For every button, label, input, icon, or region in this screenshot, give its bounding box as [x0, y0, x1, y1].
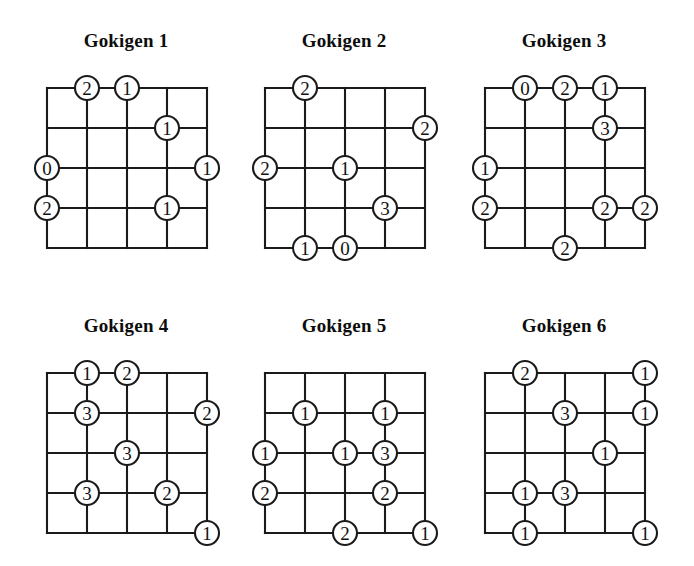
- grid-canvas: 021312222: [469, 72, 661, 264]
- clue-value: 1: [420, 523, 430, 544]
- clue-circle[interactable]: 0: [513, 76, 537, 100]
- clue-value: 3: [122, 443, 132, 464]
- clue-circle[interactable]: 2: [473, 196, 497, 220]
- clue-circle[interactable]: 2: [155, 481, 179, 505]
- clue-circle[interactable]: 3: [593, 116, 617, 140]
- puzzle-grid[interactable]: 2221310: [265, 88, 425, 248]
- grid-lines: [485, 373, 645, 533]
- grid-canvas: 111132221: [249, 357, 441, 549]
- clue-value: 1: [600, 78, 610, 99]
- clue-circle[interactable]: 2: [195, 401, 219, 425]
- clue-circle[interactable]: 2: [115, 361, 139, 385]
- clue-value: 2: [420, 118, 430, 139]
- clue-value: 2: [560, 78, 570, 99]
- puzzle-sheet: Gokigen 12110121Gokigen 22221310Gokigen …: [0, 0, 694, 566]
- puzzle-grid[interactable]: 111132221: [265, 373, 425, 533]
- clue-circle[interactable]: 1: [633, 361, 657, 385]
- clue-circle[interactable]: 1: [195, 521, 219, 545]
- clue-value: 1: [82, 363, 92, 384]
- clue-circle[interactable]: 1: [75, 361, 99, 385]
- clue-value: 2: [300, 78, 310, 99]
- clue-circle[interactable]: 1: [513, 481, 537, 505]
- clue-value: 1: [380, 403, 390, 424]
- puzzle-grid[interactable]: 12323321: [47, 373, 207, 533]
- clue-value: 1: [340, 158, 350, 179]
- clue-value: 2: [42, 198, 52, 219]
- clue-value: 1: [122, 78, 132, 99]
- clue-value: 3: [560, 403, 570, 424]
- clue-value: 2: [640, 198, 650, 219]
- clue-circle[interactable]: 3: [553, 401, 577, 425]
- clue-circle[interactable]: 2: [293, 76, 317, 100]
- clue-circle[interactable]: 2: [253, 156, 277, 180]
- clue-value: 2: [122, 363, 132, 384]
- clue-circle[interactable]: 2: [633, 196, 657, 220]
- clue-circle[interactable]: 1: [373, 401, 397, 425]
- clue-circle[interactable]: 2: [593, 196, 617, 220]
- clue-circle[interactable]: 2: [373, 481, 397, 505]
- clue-circle[interactable]: 2: [513, 361, 537, 385]
- puzzle-title: Gokigen 3: [485, 30, 643, 52]
- clue-value: 2: [340, 523, 350, 544]
- clue-circle[interactable]: 3: [115, 441, 139, 465]
- clue-value: 2: [260, 158, 270, 179]
- clue-value: 1: [640, 403, 650, 424]
- clue-circle[interactable]: 1: [253, 441, 277, 465]
- clue-circle[interactable]: 1: [513, 521, 537, 545]
- clue-circle[interactable]: 3: [75, 481, 99, 505]
- clue-circle[interactable]: 2: [553, 76, 577, 100]
- clue-circle[interactable]: 3: [553, 481, 577, 505]
- clue-circle[interactable]: 1: [293, 236, 317, 260]
- clue-circle[interactable]: 0: [333, 236, 357, 260]
- clue-value: 1: [520, 483, 530, 504]
- clue-value: 1: [202, 523, 212, 544]
- clue-circle[interactable]: 1: [413, 521, 437, 545]
- clue-circle[interactable]: 0: [35, 156, 59, 180]
- clue-circle[interactable]: 2: [253, 481, 277, 505]
- clue-circle[interactable]: 2: [413, 116, 437, 140]
- puzzle-grid[interactable]: 021312222: [485, 88, 645, 248]
- clue-circle[interactable]: 1: [293, 401, 317, 425]
- clue-value: 0: [42, 158, 52, 179]
- clue-circle[interactable]: 1: [593, 76, 617, 100]
- clue-circle[interactable]: 2: [35, 196, 59, 220]
- clue-value: 3: [600, 118, 610, 139]
- clue-circle[interactable]: 2: [553, 236, 577, 260]
- clue-circle[interactable]: 2: [333, 521, 357, 545]
- clue-value: 1: [640, 363, 650, 384]
- clue-circle[interactable]: 1: [115, 76, 139, 100]
- puzzle-grid[interactable]: 2110121: [47, 88, 207, 248]
- clue-value: 2: [380, 483, 390, 504]
- puzzle-title: Gokigen 4: [47, 315, 205, 337]
- clue-value: 1: [640, 523, 650, 544]
- puzzle-grid[interactable]: 213111311: [485, 373, 645, 533]
- clue-value: 1: [520, 523, 530, 544]
- puzzle-title: Gokigen 5: [265, 315, 423, 337]
- clue-value: 1: [600, 443, 610, 464]
- grid-lines: [485, 88, 645, 248]
- clue-value: 2: [202, 403, 212, 424]
- grid-canvas: 12323321: [31, 357, 223, 549]
- clue-circle[interactable]: 1: [473, 156, 497, 180]
- clue-value: 2: [480, 198, 490, 219]
- clue-circle[interactable]: 3: [373, 441, 397, 465]
- grid-canvas: 2221310: [249, 72, 441, 264]
- clue-circle[interactable]: 1: [333, 441, 357, 465]
- clue-circle[interactable]: 1: [593, 441, 617, 465]
- clue-value: 2: [560, 238, 570, 259]
- clue-circle[interactable]: 2: [75, 76, 99, 100]
- clue-circle[interactable]: 1: [333, 156, 357, 180]
- clue-circle[interactable]: 1: [155, 116, 179, 140]
- clue-circle[interactable]: 1: [155, 196, 179, 220]
- clue-value: 3: [380, 198, 390, 219]
- clue-value: 3: [380, 443, 390, 464]
- clue-value: 0: [340, 238, 350, 259]
- clue-circle[interactable]: 1: [195, 156, 219, 180]
- clue-value: 0: [520, 78, 530, 99]
- clue-circle[interactable]: 3: [75, 401, 99, 425]
- puzzle-title: Gokigen 1: [47, 30, 205, 52]
- clue-circle[interactable]: 1: [633, 521, 657, 545]
- clue-circle[interactable]: 3: [373, 196, 397, 220]
- clue-circle[interactable]: 1: [633, 401, 657, 425]
- clue-value: 1: [480, 158, 490, 179]
